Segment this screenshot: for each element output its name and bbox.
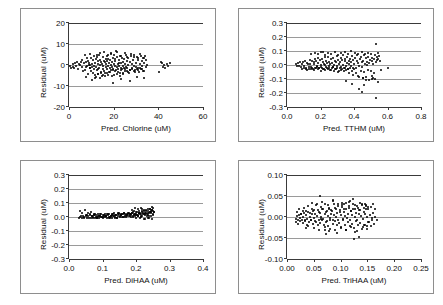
data-point (312, 223, 314, 225)
data-point (338, 222, 340, 224)
data-point (147, 217, 149, 219)
data-point (339, 211, 341, 213)
data-point (99, 59, 101, 61)
data-point (335, 216, 337, 218)
data-point (351, 83, 353, 85)
data-point (359, 58, 361, 60)
gridline (69, 107, 203, 108)
data-point (342, 219, 344, 221)
data-point (349, 200, 351, 202)
data-point (137, 208, 139, 210)
data-point (332, 66, 334, 68)
x-tick-label: 0.6 (382, 112, 393, 121)
data-point (103, 51, 105, 53)
data-point (363, 84, 365, 86)
data-point (340, 214, 342, 216)
data-point (348, 60, 350, 62)
data-point (351, 223, 353, 225)
data-point (296, 211, 298, 213)
data-point (150, 215, 152, 217)
data-point (135, 217, 137, 219)
data-point (306, 69, 308, 71)
data-point (150, 210, 152, 212)
data-point (365, 205, 367, 207)
data-point (305, 227, 307, 229)
data-point (376, 219, 378, 221)
data-point (92, 217, 94, 219)
data-point (358, 236, 360, 238)
data-point (362, 77, 364, 79)
data-point (364, 213, 366, 215)
data-point (344, 58, 346, 60)
data-point (345, 202, 347, 204)
x-tick-label: 20 (109, 112, 118, 121)
x-tick-label: 0.8 (415, 112, 426, 121)
data-point (111, 214, 113, 216)
data-point (343, 203, 345, 205)
data-point (313, 227, 315, 229)
data-point (120, 55, 122, 57)
data-point (340, 227, 342, 229)
data-point (339, 61, 341, 63)
data-point (348, 72, 350, 74)
data-point (359, 222, 361, 224)
data-point (169, 62, 171, 64)
data-point (117, 68, 119, 70)
data-point (85, 76, 87, 78)
x-tick-mark (421, 259, 422, 262)
data-point (105, 58, 107, 60)
data-point (132, 59, 134, 61)
data-point (153, 211, 155, 213)
x-tick-label: 0.4 (197, 264, 208, 273)
y-tick-mark (66, 174, 69, 175)
y-tick-label: -0.1 (51, 227, 65, 236)
y-tick-label: 0.3 (272, 19, 283, 28)
data-point (362, 218, 364, 220)
data-point (126, 67, 128, 69)
data-point (309, 212, 311, 214)
data-point (80, 215, 82, 217)
x-tick-mark (314, 259, 315, 262)
data-point (365, 57, 367, 59)
data-point (350, 210, 352, 212)
data-point (355, 220, 357, 222)
data-point (342, 64, 344, 66)
y-tick-mark (284, 64, 287, 65)
data-point (377, 81, 379, 83)
data-point (140, 213, 142, 215)
data-point (361, 228, 363, 230)
data-point (124, 52, 126, 54)
data-point (143, 77, 145, 79)
gridline (69, 175, 203, 176)
data-point (387, 67, 389, 69)
panel-chlorine: Residual (uM) Pred. Chlorine (uM) 20100-… (20, 8, 216, 142)
data-point (363, 224, 365, 226)
data-point (91, 79, 93, 81)
data-point (130, 55, 132, 57)
data-point (374, 216, 376, 218)
gridline (69, 44, 203, 45)
y-tick-mark (284, 174, 287, 175)
data-point (131, 209, 133, 211)
x-tick-label: 0.2 (130, 264, 141, 273)
data-point (305, 214, 307, 216)
data-point (133, 54, 135, 56)
data-point (145, 66, 147, 68)
data-point (132, 216, 134, 218)
data-point (164, 67, 166, 69)
y-tick-mark (284, 237, 287, 238)
data-point (328, 230, 330, 232)
data-point (143, 218, 145, 220)
data-point (354, 216, 356, 218)
data-point (355, 72, 357, 74)
data-point (105, 215, 107, 217)
gridline (287, 93, 421, 94)
data-point (327, 52, 329, 54)
data-point (167, 65, 169, 67)
x-axis-title-tthm: Pred. TTHM (uM) (287, 124, 421, 133)
y-tick-label: -10 (53, 82, 65, 91)
x-tick-label: 0.0 (281, 112, 292, 121)
data-point (371, 78, 373, 80)
data-point (123, 58, 125, 60)
y-tick-label: 0.0 (272, 61, 283, 70)
